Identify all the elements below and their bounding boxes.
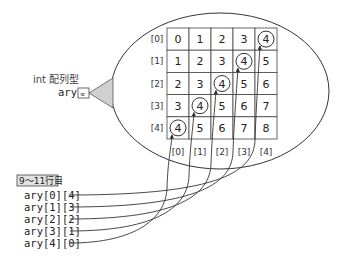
cell-value: 1 bbox=[197, 33, 204, 46]
cell-value: 4 bbox=[241, 55, 248, 68]
array-diagram: int 配列型 ary ∝ 0123412345234563456745678 … bbox=[0, 0, 346, 266]
cell-value: 7 bbox=[241, 122, 248, 135]
row-index-label: [1] bbox=[151, 56, 164, 66]
cell-value: 2 bbox=[197, 55, 204, 68]
reference-pointer bbox=[89, 78, 113, 108]
expression-label: ary[1][3] bbox=[24, 201, 81, 213]
cell-value: 5 bbox=[219, 100, 226, 113]
column-index-label: [4] bbox=[260, 147, 273, 157]
cell-value: 2 bbox=[219, 33, 226, 46]
row-index-label: [3] bbox=[151, 101, 164, 111]
column-index-label: [3] bbox=[238, 147, 251, 157]
cell-value: 0 bbox=[175, 33, 182, 46]
expression-label: ary[4][0] bbox=[24, 237, 81, 249]
cell-value: 5 bbox=[241, 78, 248, 91]
cell-value: 5 bbox=[263, 55, 270, 68]
cell-value: 7 bbox=[263, 100, 270, 113]
row-index-label: [4] bbox=[151, 123, 164, 133]
cell-value: 3 bbox=[197, 78, 204, 91]
expression-label: ary[0][4] bbox=[24, 189, 81, 201]
cell-value: 8 bbox=[263, 122, 270, 135]
row-index-label: [0] bbox=[151, 34, 164, 44]
cell-value: 6 bbox=[263, 78, 270, 91]
expression-label: ary[3][1] bbox=[24, 225, 81, 237]
cell-value: 4 bbox=[263, 33, 270, 46]
row-index-label: [2] bbox=[151, 79, 164, 89]
variable-name: ary bbox=[58, 86, 77, 98]
cell-value: 2 bbox=[175, 78, 182, 91]
callout-label: 9～11行目 bbox=[19, 175, 63, 186]
cell-value: 5 bbox=[197, 122, 204, 135]
cell-value: 6 bbox=[241, 100, 248, 113]
cell-value: 3 bbox=[219, 55, 226, 68]
column-index-label: [1] bbox=[194, 147, 207, 157]
cell-value: 3 bbox=[175, 100, 182, 113]
reference-icon: ∝ bbox=[80, 90, 86, 99]
column-index-label: [0] bbox=[172, 147, 185, 157]
cell-value: 4 bbox=[219, 78, 226, 91]
column-index-labels: [0][1][2][3][4] bbox=[172, 147, 273, 157]
cell-value: 6 bbox=[219, 122, 226, 135]
expression-label: ary[2][2] bbox=[24, 213, 81, 225]
expression-list: ary[0][4]ary[1][3]ary[2][2]ary[3][1]ary[… bbox=[24, 189, 81, 249]
cell-value: 4 bbox=[197, 100, 204, 113]
variable-type-label: int 配列型 bbox=[33, 73, 79, 85]
cell-value: 1 bbox=[175, 55, 182, 68]
cell-value: 3 bbox=[241, 33, 248, 46]
cell-value: 4 bbox=[175, 122, 182, 135]
connector-curve bbox=[70, 135, 172, 243]
column-index-label: [2] bbox=[216, 147, 229, 157]
row-index-labels: [0][1][2][3][4] bbox=[151, 34, 164, 133]
